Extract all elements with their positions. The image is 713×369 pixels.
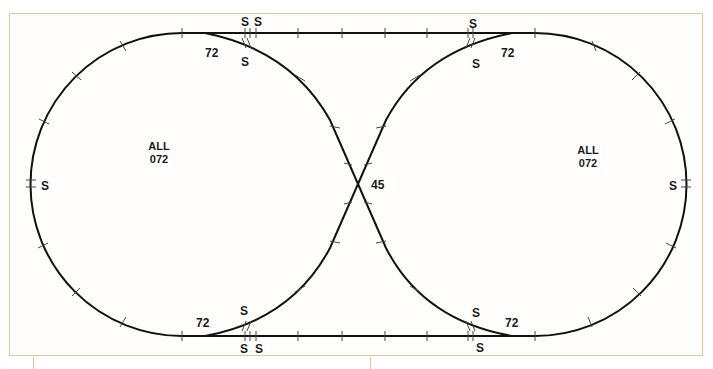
right-loop-label-line1: ALL	[577, 144, 599, 156]
right-loop-track	[512, 33, 687, 336]
switch-radius-bottom-right: 72	[505, 316, 519, 330]
switch-radius-top-right: 72	[501, 46, 515, 60]
straight-label: S	[241, 15, 249, 29]
right-loop-label-line2: 072	[579, 157, 597, 169]
left-loop-label-line2: 072	[150, 153, 168, 165]
crossover-track-b	[205, 33, 512, 336]
straight-label: S	[476, 341, 484, 355]
straight-label: S	[241, 55, 249, 69]
left-loop-track	[31, 33, 206, 336]
straight-label: S	[669, 179, 677, 193]
straight-label: S	[472, 57, 480, 71]
straight-label: S	[469, 17, 477, 31]
straight-label: S	[240, 304, 248, 318]
straight-label: S	[472, 306, 480, 320]
straight-label: S	[240, 342, 248, 356]
straight-label: S	[41, 179, 49, 193]
crossing-angle-label: 45	[371, 178, 385, 192]
straight-label: S	[254, 15, 262, 29]
track-diagram: ALL 072 ALL 072 45 72 72 72 72 S S S S S…	[0, 0, 713, 369]
straight-label: S	[255, 342, 263, 356]
switch-radius-bottom-left: 72	[196, 316, 210, 330]
switch-radius-top-left: 72	[205, 46, 219, 60]
left-loop-label-line1: ALL	[148, 140, 170, 152]
